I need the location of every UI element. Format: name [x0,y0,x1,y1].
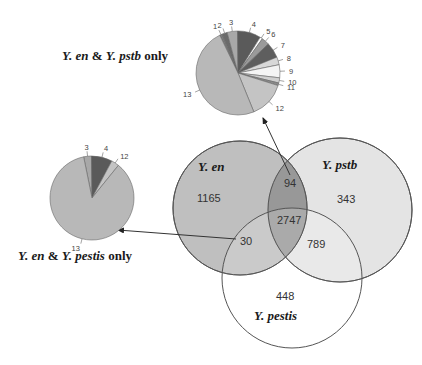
pie-label-11: 11 [287,83,295,92]
pie-en-pestis-only: 341213 [50,143,134,252]
pie-left-title: Y. en & Y. pestis only [18,248,133,263]
pie-label-5: 5 [266,27,270,36]
count-pstb-only: 343 [337,193,355,205]
label-y-pstb: Y. pstb [322,157,358,172]
pie-label-2: 2 [218,21,222,30]
pie-label-12: 12 [120,151,128,160]
pie-label-3: 3 [85,143,89,152]
pie-top-title: Y. en & Y. pstb only [62,48,169,63]
count-en-only: 1165 [197,192,221,204]
venn-diagram: Y. en Y. pstb Y. pestis 1165 343 448 94 … [173,138,412,348]
pie-label-7: 7 [281,41,285,50]
pie-label-9: 9 [289,67,293,76]
count-en-pstb: 94 [284,177,296,189]
count-all-three: 2747 [277,214,301,226]
pie-label-13: 13 [183,90,191,99]
pie-label-12: 12 [276,104,284,113]
circle-y-pestis [222,208,362,348]
pie-label-4: 4 [252,20,256,29]
label-y-pestis: Y. pestis [254,308,297,323]
pie-en-pstb-only: 12345678910111213 [183,18,296,115]
pie-label-8: 8 [287,54,291,63]
pie-label-6: 6 [271,30,275,39]
pie-label-4: 4 [104,144,108,153]
count-pstb-pestis: 789 [307,238,325,250]
count-pestis-only: 448 [276,290,294,302]
pie-label-3: 3 [229,18,233,27]
label-y-en: Y. en [198,159,224,174]
count-en-pestis: 30 [240,235,252,247]
venn-pie-figure: Y. en Y. pstb Y. pestis 1165 343 448 94 … [0,0,422,365]
